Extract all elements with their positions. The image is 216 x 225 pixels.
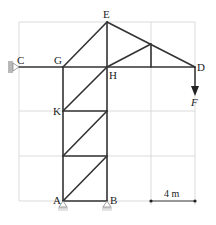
- node-label-g: G: [54, 54, 62, 66]
- member-h-mid: [107, 44, 151, 67]
- truss-diagram: C G E H D K A B F 4 m: [0, 0, 216, 225]
- dimension-label: 4 m: [164, 188, 180, 199]
- node-label-d: D: [197, 61, 205, 73]
- dimension-4m: [149, 199, 196, 202]
- member-diag-3: [63, 156, 107, 201]
- truss-members: [19, 22, 195, 201]
- member-diag-2: [63, 111, 107, 156]
- member-kh: [63, 67, 107, 111]
- node-label-e: E: [103, 8, 110, 20]
- node-label-k: K: [53, 105, 61, 117]
- member-ge: [63, 22, 107, 67]
- node-label-h: H: [109, 69, 117, 81]
- node-label-a: A: [53, 194, 61, 206]
- load-label-f: F: [190, 96, 198, 108]
- node-label-c: C: [17, 54, 24, 66]
- node-label-b: B: [110, 194, 117, 206]
